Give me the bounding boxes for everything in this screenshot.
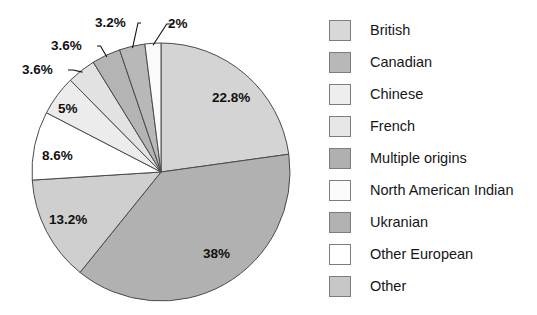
slice-value-label: 22.8% (212, 90, 250, 105)
pie-chart-figure: 22.8%38%13.2%8.6%5%3.6%3.6%3.2%2% Britis… (0, 0, 537, 315)
legend-item[interactable]: North American Indian (329, 174, 534, 206)
legend-color-swatch (329, 244, 351, 265)
legend-item-label: British (370, 23, 410, 38)
legend-item[interactable]: Multiple origins (329, 142, 534, 174)
legend-color-swatch (329, 180, 351, 201)
legend-item-label: Other European (370, 247, 473, 262)
legend-item[interactable]: British (329, 14, 534, 46)
legend-color-swatch (329, 116, 351, 137)
legend-item[interactable]: Other (329, 270, 534, 302)
chart-legend: BritishCanadianChineseFrenchMultiple ori… (329, 14, 534, 302)
legend-item[interactable]: Ukranian (329, 206, 534, 238)
legend-color-swatch (329, 212, 351, 233)
legend-item-label: Canadian (370, 55, 432, 70)
pie-slices (32, 43, 290, 301)
slice-value-label: 3.6% (51, 38, 82, 53)
legend-color-swatch (329, 52, 351, 73)
legend-color-swatch (329, 148, 351, 169)
legend-item-label: Chinese (370, 87, 423, 102)
legend-item[interactable]: Chinese (329, 78, 534, 110)
legend-item[interactable]: Other European (329, 238, 534, 270)
legend-item[interactable]: Canadian (329, 46, 534, 78)
pie-chart-canvas: 22.8%38%13.2%8.6%5%3.6%3.6%3.2%2% (0, 0, 330, 315)
legend-item-label: North American Indian (370, 183, 513, 198)
legend-item-label: Multiple origins (370, 151, 467, 166)
legend-color-swatch (329, 276, 351, 297)
slice-value-label: 3.2% (95, 15, 126, 30)
legend-item-label: Other (370, 279, 406, 294)
slice-value-label: 8.6% (42, 148, 73, 163)
leader-line (97, 46, 107, 57)
legend-item-label: French (370, 119, 415, 134)
legend-item-label: Ukranian (370, 215, 428, 230)
legend-color-swatch (329, 20, 351, 41)
slice-value-label: 38% (203, 246, 230, 261)
slice-value-label: 5% (58, 101, 78, 116)
legend-item[interactable]: French (329, 110, 534, 142)
slice-value-label: 3.6% (22, 62, 53, 77)
slice-value-label: 13.2% (49, 212, 87, 227)
slice-value-label: 2% (168, 16, 188, 31)
pie-slice[interactable] (161, 43, 289, 172)
legend-color-swatch (329, 84, 351, 105)
